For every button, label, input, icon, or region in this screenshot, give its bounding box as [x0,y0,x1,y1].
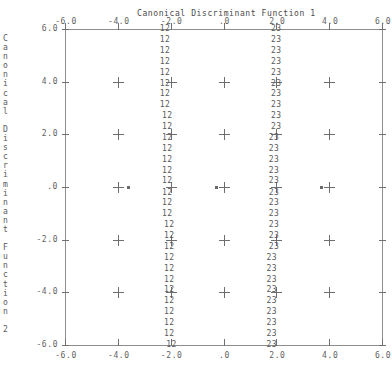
group-boundary-label: 23 [271,47,281,55]
group-boundary-label: 23 [267,297,277,305]
group-boundary-label: 23 [271,69,281,77]
group-boundary-label: 23 [267,341,277,349]
group-boundary-label: 23 [271,112,281,120]
group-boundary-label: 23 [269,199,279,207]
group-boundary-label: 23 [269,167,279,175]
group-boundary-label: 23 [271,25,281,33]
group-boundary-label: 23 [267,265,277,273]
group-boundary-label: 23 [271,36,281,44]
group-boundary-label: 23 [267,254,277,262]
group-boundary-label: 23 [267,286,277,294]
group-boundary-label: 23 [269,221,279,229]
group-boundary-label: 23 [269,134,279,142]
group-boundary-label: 23 [271,58,281,66]
group-boundary-label: 23 [269,243,279,251]
group-boundary-label: 23 [271,101,281,109]
group-boundary-label: 23 [269,232,279,240]
group-boundary-label: 23 [269,177,279,185]
group-boundary-label: 23 [271,90,281,98]
discriminant-plot: Canonical Discriminant Function 1 Canoni… [0,0,392,371]
group-boundary-column-23: 2323232323232323232323232323232323232323… [0,0,392,371]
group-boundary-label: 23 [267,308,277,316]
group-boundary-label: 23 [269,156,279,164]
group-boundary-label: 23 [271,123,281,131]
group-boundary-label: 23 [271,80,281,88]
group-boundary-label: 23 [269,189,279,197]
group-boundary-label: 23 [267,319,277,327]
group-boundary-label: 23 [267,276,277,284]
group-boundary-label: 23 [269,210,279,218]
group-boundary-label: 23 [269,145,279,153]
group-boundary-label: 23 [267,330,277,338]
